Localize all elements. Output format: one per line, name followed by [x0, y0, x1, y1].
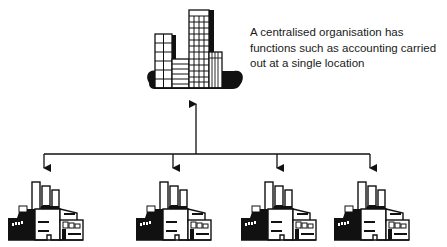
head-office-caption: A centralised organisation has functions… [250, 25, 445, 72]
office-building-icon [147, 10, 243, 89]
factory-icon [241, 182, 316, 240]
caption-line: A centralised organisation has [250, 25, 445, 41]
caption-line: out at a single location [250, 56, 445, 72]
caption-line: functions such as accounting carried [250, 41, 445, 57]
factory-icon [136, 182, 211, 240]
connector-lines [44, 104, 370, 168]
factory-icon [334, 182, 409, 240]
factory-icon [8, 182, 83, 240]
